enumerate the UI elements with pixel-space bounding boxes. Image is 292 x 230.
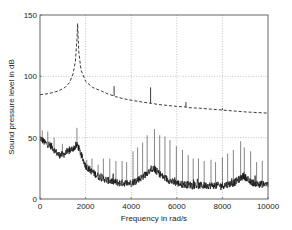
spl-frequency-chart: 0200040006000800010000 050100150 Frequen… xyxy=(0,0,292,230)
y-axis-ticks: 050100150 xyxy=(24,11,42,204)
spectrum-line xyxy=(40,137,268,191)
x-tick-label: 0 xyxy=(38,202,43,211)
y-axis-label: Sound pressure level in dB xyxy=(7,59,16,155)
y-tick-label: 0 xyxy=(33,195,38,204)
x-tick-label: 2000 xyxy=(77,202,95,211)
y-tick-label: 100 xyxy=(24,72,38,81)
x-axis-label: Frequency in rad/s xyxy=(121,214,187,223)
measured-spectrum-series xyxy=(40,128,268,190)
x-tick-label: 6000 xyxy=(168,202,186,211)
plot-frame xyxy=(40,15,268,199)
resonance-curve xyxy=(40,24,268,114)
y-tick-label: 150 xyxy=(24,11,38,20)
x-tick-label: 4000 xyxy=(122,202,140,211)
x-tick-label: 10000 xyxy=(257,202,280,211)
y-tick-label: 50 xyxy=(28,134,37,143)
resonance-curve-series xyxy=(40,24,268,114)
grid-lines xyxy=(40,15,268,199)
x-tick-label: 8000 xyxy=(214,202,232,211)
